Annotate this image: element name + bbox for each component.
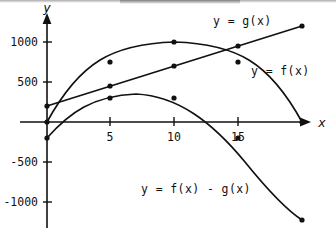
marker-point	[107, 83, 112, 88]
y-axis-label: y	[42, 0, 51, 15]
marker-point	[235, 135, 240, 140]
y-tick-label-1000: 1000	[10, 35, 38, 49]
label-f-of-x: y = f(x)	[251, 64, 310, 78]
x-tick-label-10: 10	[167, 130, 181, 144]
function-graph-svg: 1000 500 -500 -1000 5 10 15 y x	[0, 0, 336, 238]
y-tick-label-neg500: -500	[10, 155, 38, 169]
marker-point	[299, 119, 304, 124]
marker-point	[171, 95, 176, 100]
curve-f-of-x	[47, 42, 302, 122]
y-tick-label-neg1000: -1000	[3, 195, 38, 209]
marker-point	[235, 59, 240, 64]
markers-f-minus-g	[44, 95, 304, 222]
graph-figure: 1000 500 -500 -1000 5 10 15 y x	[0, 0, 336, 238]
marker-point	[299, 23, 304, 28]
marker-point	[44, 135, 49, 140]
label-g-of-x: y = g(x)	[213, 14, 272, 28]
curve-f-minus-g	[47, 94, 302, 220]
marker-point	[44, 103, 49, 108]
marker-point	[107, 95, 112, 100]
marker-point	[235, 43, 240, 48]
x-axis-label: x	[317, 115, 326, 130]
label-f-minus-g: y = f(x) - g(x)	[141, 182, 251, 196]
marker-point	[44, 119, 49, 124]
marker-point	[171, 39, 176, 44]
marker-point	[171, 63, 176, 68]
y-tick-label-500: 500	[17, 75, 38, 89]
x-tick-label-5: 5	[107, 130, 114, 144]
marker-point	[299, 217, 304, 222]
marker-point	[107, 59, 112, 64]
markers-f-of-x	[44, 39, 304, 124]
